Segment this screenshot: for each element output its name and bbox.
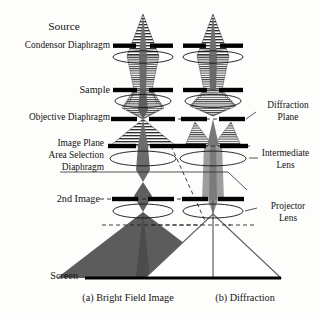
- label-source: Source: [16, 20, 112, 32]
- aperture-image-plane-a: [108, 144, 136, 148]
- label-intermediate-lens-line2: Lens: [250, 160, 321, 170]
- label-objective-diaphragm: Objective Diaphragm: [0, 112, 110, 122]
- label-screen: Screen: [0, 270, 78, 281]
- label-projector-lens-line2: Lens: [255, 213, 321, 223]
- beam-condensed-core-a: [139, 56, 147, 90]
- aperture-second-image-a: [112, 197, 138, 201]
- label-sample: Sample: [0, 84, 110, 95]
- beam-columns-core-b: [209, 146, 217, 200]
- aperture-condensor-diaphragm-b: [183, 44, 206, 48]
- caption-diffraction: (b) Diffraction: [190, 292, 300, 303]
- beam-scatter-fan-b: [190, 90, 236, 116]
- beam-condensed-core-b: [209, 56, 217, 90]
- label-condensor-diaphragm: Condensor Diaphragm: [0, 40, 110, 50]
- aperture-second-image-b: [182, 197, 208, 201]
- label-diffraction-plane-line1: Diffraction: [255, 100, 321, 110]
- label-projector-lens-line1: Projector: [255, 201, 321, 211]
- aperture-sample-a: [113, 88, 137, 92]
- label-second-image: 2nd Image: [0, 193, 100, 204]
- beam-diffraction-center-b: [207, 119, 219, 146]
- aperture-sample-b: [183, 88, 207, 92]
- caption-bright-field-image: (a) Bright Field Image: [66, 292, 190, 303]
- tem-ray-diagram-figure: Source Condensor Diaphragm Sample Object…: [0, 0, 321, 314]
- aperture-diffraction-plane-b: [178, 144, 206, 148]
- label-diaphragm: Diaphragm: [0, 162, 104, 172]
- aperture-objective-diaphragm-a: [111, 117, 137, 121]
- label-diffraction-plane-line2: Plane: [255, 112, 321, 122]
- label-image-plane: Image Plane: [0, 138, 104, 148]
- label-area-selection: Area Selection: [0, 150, 104, 160]
- label-intermediate-lens-line1: Intermediate: [250, 148, 321, 158]
- aperture-objective-diaphragm-b: [181, 117, 207, 121]
- aperture-condensor-diaphragm-a: [113, 44, 136, 48]
